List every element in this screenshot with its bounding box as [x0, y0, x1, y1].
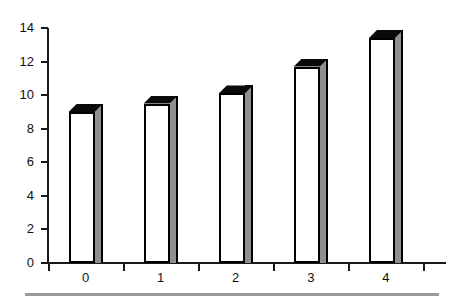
- y-tick-mark: [41, 262, 48, 264]
- x-tick-mark: [348, 264, 350, 271]
- y-tick-mark: [41, 161, 48, 163]
- x-tick-mark: [423, 264, 425, 271]
- y-tick-mark: [41, 128, 48, 130]
- bar: [294, 0, 330, 263]
- bar-front-face: [294, 67, 320, 263]
- y-tick-mark: [41, 61, 48, 63]
- y-tick-label: 0: [8, 256, 34, 269]
- bar-side-face: [170, 96, 178, 263]
- bar-side-face: [245, 85, 253, 263]
- x-tick-mark: [273, 264, 275, 271]
- y-tick-label: 12: [8, 55, 34, 68]
- y-tick-label: 2: [8, 222, 34, 235]
- x-tick-mark: [198, 264, 200, 271]
- x-tick-mark: [123, 264, 125, 271]
- y-tick-label: 6: [8, 155, 34, 168]
- bar-side-face: [320, 59, 328, 263]
- bar-front-face: [69, 112, 95, 263]
- y-tick-mark: [41, 27, 48, 29]
- x-tick-label: 1: [141, 270, 181, 285]
- bar: [219, 0, 255, 263]
- bar: [369, 0, 405, 263]
- y-tick-label: 14: [8, 21, 34, 34]
- x-tick-label: 2: [216, 270, 256, 285]
- bar-front-face: [369, 38, 395, 263]
- bar: [69, 0, 105, 263]
- y-tick-mark: [41, 195, 48, 197]
- y-tick-label: 10: [8, 88, 34, 101]
- bar: [144, 0, 180, 263]
- footer-rule: [25, 293, 439, 296]
- x-tick-label: 4: [366, 270, 406, 285]
- plot-area: 02468101214 01234: [0, 0, 464, 302]
- x-tick-label: 3: [291, 270, 331, 285]
- y-tick-mark: [41, 94, 48, 96]
- y-tick-mark: [41, 228, 48, 230]
- x-tick-label: 0: [66, 270, 106, 285]
- bar-side-face: [395, 30, 403, 263]
- bar-chart-figure: 02468101214 01234: [0, 0, 464, 302]
- bar-front-face: [219, 93, 245, 263]
- y-tick-label: 4: [8, 189, 34, 202]
- bar-front-face: [144, 104, 170, 263]
- x-tick-mark: [48, 264, 50, 271]
- y-tick-label: 8: [8, 122, 34, 135]
- bar-side-face: [95, 104, 103, 263]
